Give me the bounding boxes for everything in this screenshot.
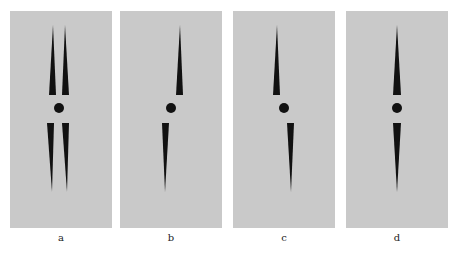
upper-spike (393, 25, 401, 95)
lower-right-spike (62, 123, 69, 192)
upper-right-spike (62, 25, 69, 95)
panel-b (120, 11, 222, 228)
lower-spike (162, 123, 169, 192)
center-dot (392, 103, 402, 113)
panel-d-drawing (346, 11, 448, 228)
center-dot (166, 103, 176, 113)
panel-d (346, 11, 448, 228)
panel-a-drawing (10, 11, 112, 228)
center-dot (54, 103, 64, 113)
panel-c-drawing (233, 11, 335, 228)
panel-b-drawing (120, 11, 222, 228)
lower-spike (393, 123, 401, 192)
upper-spike (176, 25, 183, 95)
lower-left-spike (47, 123, 54, 192)
figure: a b c d (0, 0, 454, 253)
panel-b-label: b (120, 231, 222, 245)
panel-d-label: d (346, 231, 448, 245)
upper-left-spike (49, 25, 56, 95)
panel-a (10, 11, 112, 228)
center-dot (279, 103, 289, 113)
upper-spike (273, 25, 280, 95)
lower-spike (287, 123, 294, 192)
panel-c-label: c (233, 231, 335, 245)
panel-a-label: a (10, 231, 112, 245)
panel-c (233, 11, 335, 228)
